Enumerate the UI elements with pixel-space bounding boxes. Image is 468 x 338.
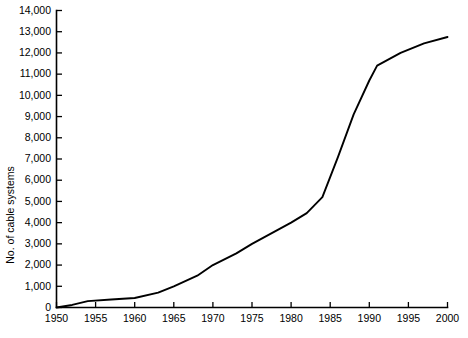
x-tick-label: 1955 [84, 312, 108, 324]
x-tick-label: 1995 [397, 312, 421, 324]
y-tick-label: 12,000 [19, 46, 51, 58]
y-tick-label: 3,000 [25, 237, 51, 249]
x-tick-label: 1950 [45, 312, 69, 324]
y-tick-label: 1,000 [25, 280, 51, 292]
y-tick-label: 5,000 [25, 195, 51, 207]
y-tick-label: 7,000 [25, 152, 51, 164]
axis-tick-marks [57, 11, 448, 308]
data-series-line [57, 37, 448, 307]
x-tick-label: 1965 [162, 312, 186, 324]
y-tick-label: 2,000 [25, 258, 51, 270]
y-tick-label: 14,000 [19, 4, 51, 16]
y-tick-label: 10,000 [19, 89, 51, 101]
y-tick-label: 11,000 [20, 67, 51, 79]
y-tick-label: 6,000 [25, 173, 51, 185]
y-axis-title: No. of cable systems [4, 166, 16, 263]
x-tick-label: 1980 [279, 312, 303, 324]
x-tick-label: 1985 [319, 312, 343, 324]
y-tick-label: 8,000 [25, 131, 51, 143]
line-chart: No. of cable systems 01,0002,0003,0004,0… [0, 0, 468, 338]
y-axis-title-label: No. of cable systems [4, 166, 16, 263]
x-tick-label: 2000 [436, 312, 460, 324]
y-tick-label: 13,000 [19, 25, 51, 37]
x-tick-label: 1970 [201, 312, 225, 324]
chart-canvas: No. of cable systems 01,0002,0003,0004,0… [0, 0, 468, 338]
x-tick-label: 1975 [240, 312, 264, 324]
x-axis-tick-labels: 1950195519601965197019751980198519901995… [45, 312, 460, 324]
axis-frame [57, 11, 448, 308]
x-tick-label: 1960 [123, 312, 147, 324]
y-axis-tick-labels: 01,0002,0003,0004,0005,0006,0007,0008,00… [19, 4, 51, 313]
y-tick-label: 4,000 [25, 216, 51, 228]
y-tick-label: 9,000 [25, 110, 51, 122]
x-tick-label: 1990 [358, 312, 382, 324]
